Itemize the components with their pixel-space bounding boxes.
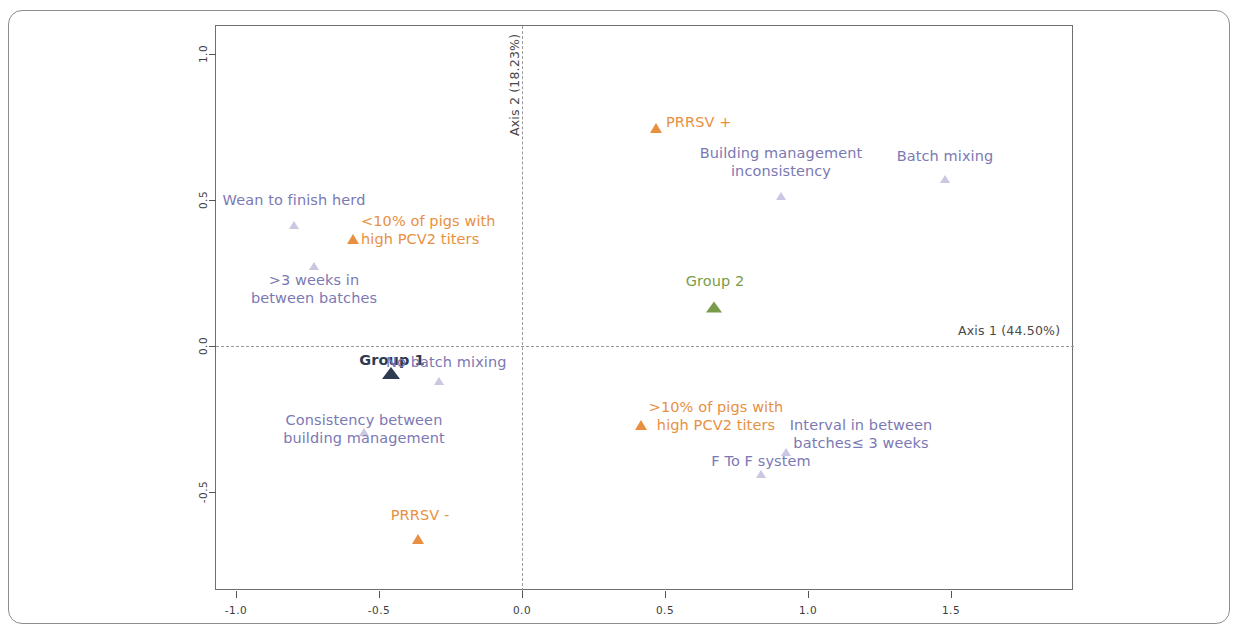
x-tick-mark xyxy=(951,591,952,598)
y-tick-label: 0.0 xyxy=(197,337,209,355)
data-point-label: PRRSV + xyxy=(666,113,731,131)
y-tick-mark xyxy=(209,54,216,55)
x-tick-label: 1.5 xyxy=(942,604,960,616)
y-tick-mark xyxy=(209,492,216,493)
data-point-label: No batch mixing xyxy=(386,353,507,371)
x-tick-label: 0.5 xyxy=(656,604,674,616)
y-tick-label: -0.5 xyxy=(197,481,209,504)
x-tick-mark xyxy=(665,591,666,598)
horizontal-reference-axis xyxy=(216,346,1074,347)
y-tick-mark xyxy=(209,346,216,347)
data-point-label: PRRSV - xyxy=(346,506,494,524)
data-point-label: >3 weeks in between batches xyxy=(194,271,434,307)
x-tick-mark xyxy=(808,591,809,598)
x-tick-label: -0.5 xyxy=(368,604,391,616)
data-point-label: F To F system xyxy=(666,452,856,470)
data-point-label: Interval in between batches≤ 3 weeks xyxy=(776,416,946,452)
data-point-label: Batch mixing xyxy=(845,147,1045,165)
mca-factor-map-figure: -1.0 -0.5 0.0 0.5 1.0 1.5 1.0 0.5 0.0 -0… xyxy=(0,0,1240,635)
x-tick-label: -1.0 xyxy=(225,604,248,616)
y-axis-title: Axis 2 (18.23%) xyxy=(507,34,522,136)
data-point-label: >10% of pigs with high PCV2 titers xyxy=(636,398,796,434)
data-point-label: Wean to finish herd xyxy=(173,191,415,209)
data-point-label: Group 2 xyxy=(641,272,789,290)
data-point-label: Consistency between building management xyxy=(248,411,480,447)
x-axis-title: Axis 1 (44.50%) xyxy=(958,323,1060,338)
y-tick-label: 1.0 xyxy=(197,45,209,63)
x-tick-mark xyxy=(379,591,380,598)
x-tick-mark xyxy=(236,591,237,598)
vertical-reference-axis xyxy=(522,26,523,591)
x-tick-mark xyxy=(522,591,523,598)
x-tick-label: 1.0 xyxy=(799,604,817,616)
data-point-label: <10% of pigs with high PCV2 titers xyxy=(361,212,496,248)
x-tick-label: 0.0 xyxy=(513,604,531,616)
plot-panel: -1.0 -0.5 0.0 0.5 1.0 1.5 1.0 0.5 0.0 -0… xyxy=(215,25,1073,590)
